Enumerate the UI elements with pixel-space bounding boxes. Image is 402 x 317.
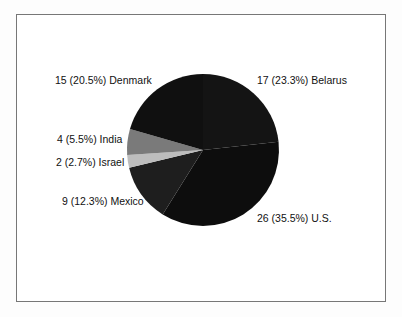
label-mexico: 9 (12.3%) Mexico (62, 195, 144, 207)
label-us: 26 (35.5%) U.S. (257, 212, 332, 224)
label-denmark: 15 (20.5%) Denmark (55, 74, 152, 86)
label-india: 4 (5.5%) India (57, 133, 122, 145)
label-belarus: 17 (23.3%) Belarus (257, 74, 347, 86)
label-israel: 2 (2.7%) Israel (56, 156, 124, 168)
